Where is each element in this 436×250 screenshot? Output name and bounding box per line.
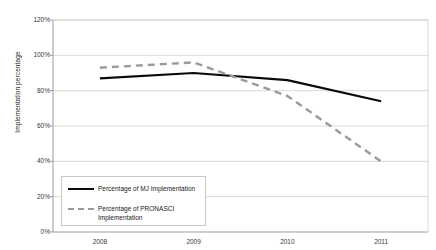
legend-label: Percentage of MJ Implementation [98,185,195,194]
legend-label: Percentage of PRONASCI Implementation [98,205,174,222]
x-tick-label: 2010 [267,238,307,246]
chart-legend: Percentage of MJ Implementation Percenta… [61,176,206,226]
legend-swatch-dashed-icon [68,208,94,210]
legend-item-pronasci: Percentage of PRONASCI Implementation [68,205,174,222]
gridlines [53,20,428,197]
legend-swatch-solid-icon [68,188,94,190]
x-tick-label: 2008 [80,238,120,246]
x-tick-label: 2011 [361,238,401,246]
x-tick-label: 2009 [174,238,214,246]
series-lines [100,62,381,161]
line-chart: Implementation percentage 120% 100% 80% … [0,0,436,250]
legend-item-mj: Percentage of MJ Implementation [68,185,195,194]
